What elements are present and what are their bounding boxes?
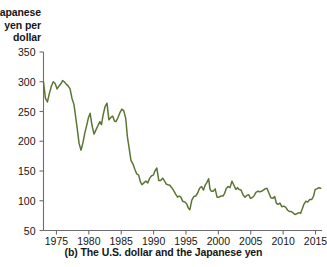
y-tick-label: 100 bbox=[18, 195, 36, 207]
y-tick-label: 200 bbox=[18, 135, 36, 147]
x-tick-label: 2005 bbox=[239, 235, 263, 246]
y-axis-title-line-3: dollar bbox=[0, 31, 41, 44]
line-chart: 50100150200250300350 1975198019851990199… bbox=[0, 0, 327, 245]
y-tick-label: 150 bbox=[18, 165, 36, 177]
x-tick-label: 1995 bbox=[174, 235, 198, 246]
x-tick-label: 1975 bbox=[45, 235, 69, 246]
series-line bbox=[44, 81, 321, 215]
x-tick-label: 2000 bbox=[207, 235, 231, 246]
y-tick-label: 50 bbox=[24, 225, 36, 237]
x-tick-group: 197519801985199019952000200520102015 bbox=[45, 231, 327, 246]
y-axis: 50100150200250300350 bbox=[18, 46, 44, 237]
figure-caption: (b) The U.S. dollar and the Japanese yen bbox=[0, 246, 327, 258]
figure-panel: Japanese yen per dollar 5010015020025030… bbox=[0, 0, 327, 267]
x-tick-label: 2015 bbox=[304, 235, 327, 246]
y-tick-group: 50100150200250300350 bbox=[18, 46, 44, 237]
x-tick-label: 1980 bbox=[77, 235, 101, 246]
y-tick-label: 250 bbox=[18, 106, 36, 118]
y-tick-label: 350 bbox=[18, 46, 36, 58]
series-group bbox=[44, 81, 321, 215]
y-axis-title-line-2: yen per bbox=[0, 19, 41, 32]
y-axis-title-line-1: Japanese bbox=[0, 6, 41, 19]
x-axis: 197519801985199019952000200520102015 bbox=[44, 231, 327, 246]
x-tick-label: 2010 bbox=[271, 235, 295, 246]
x-tick-label: 1985 bbox=[110, 235, 134, 246]
y-axis-title: Japanese yen per dollar bbox=[0, 6, 41, 44]
y-tick-label: 300 bbox=[18, 76, 36, 88]
x-tick-label: 1990 bbox=[142, 235, 166, 246]
